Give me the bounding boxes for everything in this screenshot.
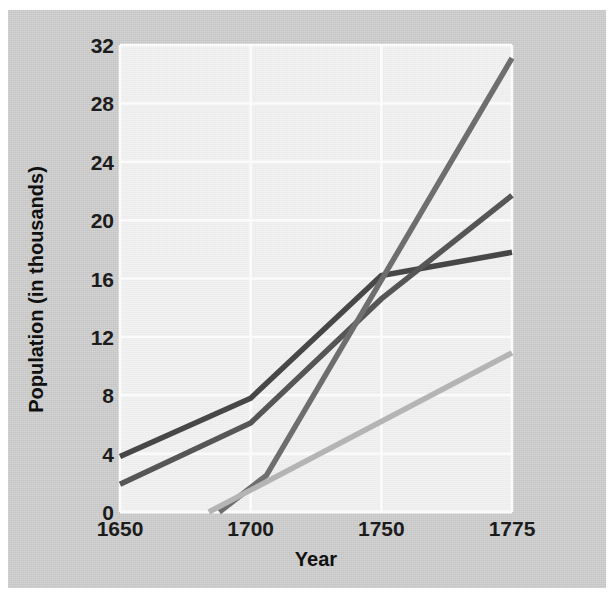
x-axis-ticks: 1650170017501775 <box>0 0 614 609</box>
x-tick-label: 1650 <box>97 518 144 539</box>
x-axis-title: Year <box>120 548 512 571</box>
x-tick-label: 1775 <box>489 518 536 539</box>
x-tick-label: 1750 <box>358 518 405 539</box>
line-chart: 048121620242832 1650170017501775 Populat… <box>0 0 614 609</box>
y-axis-title: Population (in thousands) <box>25 140 48 440</box>
x-tick-label: 1700 <box>227 518 274 539</box>
